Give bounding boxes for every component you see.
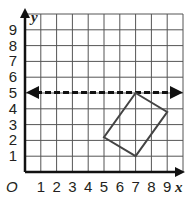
left-arrow-icon bbox=[26, 86, 39, 99]
origin-label: O bbox=[6, 178, 18, 195]
y-tick-label: 7 bbox=[9, 52, 17, 69]
y-tick-label: 3 bbox=[9, 116, 17, 133]
x-tick-label: 5 bbox=[100, 178, 108, 195]
x-tick-label: 1 bbox=[37, 178, 45, 195]
y-tick-label: 5 bbox=[9, 84, 17, 101]
y-tick-label: 4 bbox=[9, 100, 17, 117]
x-tick-label: 4 bbox=[84, 178, 92, 195]
y-tick-label: 9 bbox=[9, 21, 17, 38]
y-axis-label: y bbox=[29, 9, 38, 25]
y-axis-arrow-icon bbox=[20, 8, 30, 18]
y-tick-label: 8 bbox=[9, 37, 17, 54]
right-arrow-icon bbox=[170, 86, 183, 99]
y-tick-label: 2 bbox=[9, 131, 17, 148]
x-axis-label: x bbox=[174, 179, 183, 195]
x-tick-label: 9 bbox=[163, 178, 171, 195]
y-tick-label: 1 bbox=[9, 147, 17, 164]
coordinate-plane: 123456789 123456789 O x y bbox=[0, 0, 188, 203]
x-tick-label: 3 bbox=[68, 178, 76, 195]
x-tick-label: 2 bbox=[52, 178, 60, 195]
x-tick-label: 8 bbox=[147, 178, 155, 195]
x-tick-label: 6 bbox=[116, 178, 124, 195]
y-tick-labels: 123456789 bbox=[9, 21, 17, 164]
y-tick-label: 6 bbox=[9, 68, 17, 85]
x-tick-label: 7 bbox=[131, 178, 139, 195]
x-tick-labels: 123456789 bbox=[37, 178, 172, 195]
